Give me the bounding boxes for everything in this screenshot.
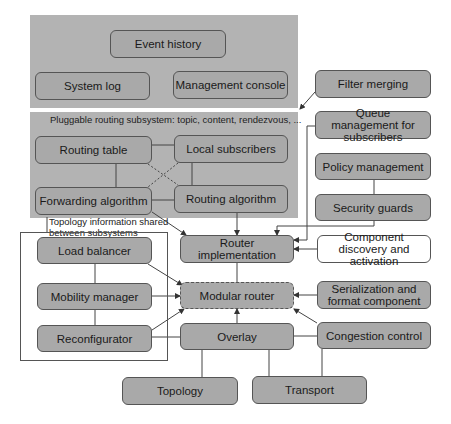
transport-box: Transport (252, 376, 367, 404)
policy-management-label: Policy management (323, 161, 424, 173)
modular-router-label: Modular router (200, 290, 275, 302)
system-log-label: System log (64, 80, 121, 92)
local-subscribers-label: Local subscribers (186, 143, 275, 155)
load-balancer-box: Load balancer (37, 237, 152, 264)
component-discovery-label: Component discovery and activation (322, 231, 426, 267)
security-guards-label: Security guards (333, 202, 413, 214)
routing-subsystem-title: Pluggable routing subsystem: topic, cont… (50, 115, 301, 126)
routing-table-box: Routing table (35, 136, 152, 164)
queue-management-label: Queue management for subscribers (328, 107, 418, 143)
topology-info-line1: Topology information shared (49, 217, 168, 228)
management-console-label: Management console (176, 79, 286, 91)
serialization-label: Serialization and format component (318, 283, 430, 307)
queue-management-box: Queue management for subscribers (315, 111, 431, 139)
filter-merging-box: Filter merging (315, 70, 431, 98)
event-history-label: Event history (135, 38, 201, 50)
event-history-box: Event history (110, 30, 226, 58)
modular-router-box: Modular router (180, 282, 294, 309)
router-implementation-label: Router implementation (181, 237, 293, 261)
topology-label: Topology (157, 385, 203, 397)
reconfigurator-label: Reconfigurator (57, 333, 132, 345)
routing-algorithm-label: Routing algorithm (186, 193, 276, 205)
management-console-box: Management console (173, 71, 288, 99)
mobility-manager-label: Mobility manager (51, 291, 139, 303)
overlay-box: Overlay (180, 323, 294, 350)
reconfigurator-box: Reconfigurator (37, 325, 152, 352)
serialization-box: Serialization and format component (317, 281, 431, 309)
mobility-manager-box: Mobility manager (37, 283, 152, 310)
system-log-box: System log (35, 72, 150, 100)
forwarding-algorithm-label: Forwarding algorithm (39, 195, 147, 207)
load-balancer-label: Load balancer (58, 245, 131, 257)
routing-table-label: Routing table (60, 144, 128, 156)
transport-label: Transport (285, 384, 334, 396)
local-subscribers-box: Local subscribers (174, 135, 288, 163)
router-implementation-box: Router implementation (180, 235, 294, 263)
congestion-control-label: Congestion control (326, 330, 422, 342)
policy-management-box: Policy management (315, 153, 431, 180)
component-discovery-box: Component discovery and activation (317, 235, 431, 263)
filter-merging-label: Filter merging (338, 78, 408, 90)
topology-box: Topology (122, 377, 238, 405)
forwarding-algorithm-box: Forwarding algorithm (35, 187, 152, 215)
routing-algorithm-box: Routing algorithm (174, 185, 288, 213)
security-guards-box: Security guards (315, 194, 431, 221)
overlay-label: Overlay (217, 331, 257, 343)
congestion-control-box: Congestion control (317, 322, 431, 349)
